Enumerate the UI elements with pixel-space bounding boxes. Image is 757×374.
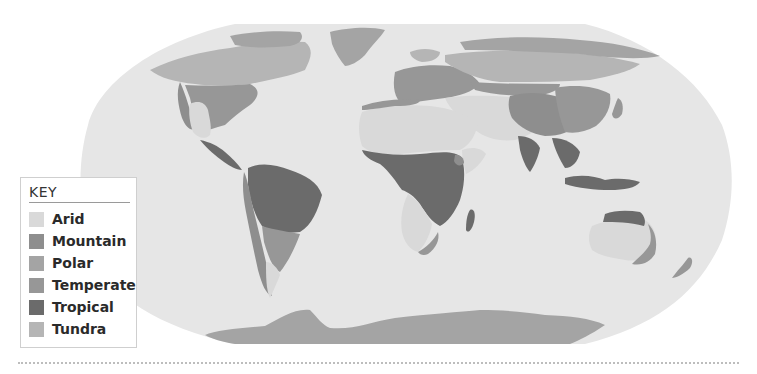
swatch-polar [29, 256, 44, 271]
swatch-mountain [29, 234, 44, 249]
legend-label-temperate: Temperate [52, 277, 136, 293]
legend-label-tundra: Tundra [52, 321, 106, 337]
dotted-divider [18, 362, 739, 364]
legend-label-mountain: Mountain [52, 233, 126, 249]
swatch-tropical [29, 300, 44, 315]
legend-label-polar: Polar [52, 255, 93, 271]
legend-item-tundra: Tundra [29, 318, 130, 340]
map-legend: KEY Arid Mountain Polar Temperate Tropic… [20, 177, 137, 348]
legend-label-arid: Arid [52, 211, 85, 227]
swatch-temperate [29, 278, 44, 293]
legend-item-temperate: Temperate [29, 274, 130, 296]
legend-title: KEY [29, 184, 130, 203]
swatch-tundra [29, 322, 44, 337]
legend-item-tropical: Tropical [29, 296, 130, 318]
legend-label-tropical: Tropical [52, 299, 114, 315]
legend-item-mountain: Mountain [29, 230, 130, 252]
legend-item-arid: Arid [29, 208, 130, 230]
swatch-arid [29, 212, 44, 227]
legend-item-polar: Polar [29, 252, 130, 274]
